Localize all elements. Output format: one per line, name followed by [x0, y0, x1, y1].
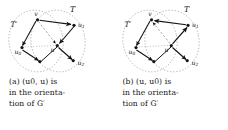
edge-u0-to-b [136, 50, 152, 61]
label-v: v [34, 10, 38, 17]
label-u: u [51, 46, 55, 53]
caption-b: (b) (u, u0) is in the orienta- tion of G… [114, 76, 228, 110]
edge-u0-to-b [23, 50, 39, 61]
edge-v-to-u0 [136, 21, 150, 46]
label-u2: u2 [78, 59, 85, 67]
edge-u-to-u2 [172, 48, 186, 60]
caption-a-line-1: (a) (u0, u) is [9, 76, 106, 87]
vertex-bottom [38, 60, 41, 63]
vertex-u2 [72, 59, 75, 62]
label-u2: u2 [191, 59, 198, 67]
caption-a: (a) (u0, u) is in the orienta- tion of G… [0, 76, 114, 110]
vertex-v [36, 18, 39, 21]
edge-u1-to-v [154, 21, 186, 25]
vertex-u0 [134, 46, 137, 49]
vertex-u1 [186, 24, 189, 27]
label-T: T [184, 5, 190, 14]
subfigure-a: v u1 u0 u u2 T′ T (a) (u0, u) is in the … [0, 0, 114, 130]
edge-b-to-u [41, 47, 57, 62]
figure-row: v u1 u0 u u2 T′ T (a) (u0, u) is in the … [0, 0, 227, 130]
edge-u1-to-u [60, 27, 75, 44]
vertex-v [149, 18, 152, 21]
label-v: v [148, 10, 152, 17]
caption-b-line-1: (b) (u, u0) is [123, 76, 220, 87]
label-T: T [70, 5, 76, 14]
caption-a-line-3: tion of G′ [9, 98, 106, 109]
label-u0: u0 [128, 48, 135, 56]
caption-b-line-3: tion of G′ [123, 98, 220, 109]
label-u: u [164, 46, 168, 53]
vertex-u0 [20, 46, 23, 49]
caption-a-line-2: in the orienta- [9, 87, 106, 98]
vertex-bottom [152, 60, 155, 63]
vertex-u1 [72, 24, 75, 27]
subfigure-b: v u1 u0 u u2 T′ T (b) (u, u0) is in the … [114, 0, 228, 130]
diagram-a: v u1 u0 u u2 T′ T [0, 0, 114, 76]
edge-v-to-u-dashed [39, 22, 56, 44]
diagram-b: v u1 u0 u u2 T′ T [114, 0, 228, 76]
label-T-prime: T′ [124, 20, 131, 29]
edge-v-to-u1 [40, 20, 72, 24]
vertex-u2 [185, 59, 188, 62]
label-T-prime: T′ [11, 20, 18, 29]
label-u0: u0 [15, 48, 22, 56]
edge-b-to-u [155, 47, 171, 62]
caption-b-line-2: in the orienta- [123, 87, 220, 98]
edge-u-to-u1 [172, 28, 187, 44]
edge-u-to-u2 [59, 48, 73, 60]
label-u1: u1 [192, 21, 199, 29]
edge-v-to-u0 [23, 21, 37, 46]
edge-u-to-v-dashed [153, 23, 170, 44]
label-u1: u1 [78, 21, 85, 29]
vertex-u [56, 44, 59, 47]
vertex-u [169, 44, 172, 47]
